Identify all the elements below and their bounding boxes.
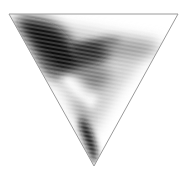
- density-triangle-svg: [0, 0, 180, 179]
- density-field: [0, 0, 180, 179]
- ternary-density-figure: [0, 0, 180, 179]
